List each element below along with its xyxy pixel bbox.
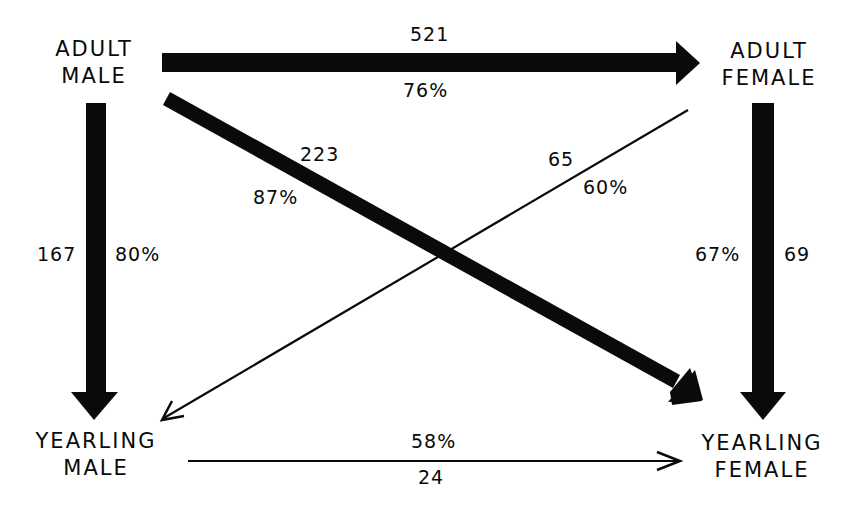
node-yearling-female-line2: FEMALE [686, 457, 838, 484]
edge-label-ym-yf-count: 24 [418, 466, 444, 488]
edge-label-am-ym-percent: 80% [115, 243, 160, 265]
node-yearling-male-line1: YEARLING [20, 428, 172, 455]
node-adult-male: ADULT MALE [38, 36, 150, 90]
edge-label-am-af-count: 521 [410, 23, 449, 45]
edge-label-af-ym-percent: 60% [583, 176, 628, 198]
arrow-adult-male-to-yearling-female [163, 92, 703, 405]
node-yearling-female: YEARLING FEMALE [686, 430, 838, 484]
node-adult-female: ADULT FEMALE [702, 38, 836, 92]
arrow-adult-female-to-yearling-male [162, 110, 688, 420]
node-adult-male-line1: ADULT [38, 36, 150, 63]
node-adult-female-line1: ADULT [702, 38, 836, 65]
node-yearling-female-line1: YEARLING [686, 430, 838, 457]
node-adult-male-line2: MALE [38, 63, 150, 90]
edge-label-af-ym-count: 65 [548, 148, 574, 170]
edge-label-ym-yf-percent: 58% [411, 430, 456, 452]
edge-label-am-yf-count: 223 [300, 143, 339, 165]
edge-label-af-yf-count: 69 [784, 243, 810, 265]
edge-label-am-ym-count: 167 [37, 243, 76, 265]
arrow-adult-male-to-yearling-male [71, 103, 118, 420]
flow-diagram: ADULT MALE ADULT FEMALE YEARLING MALE YE… [0, 0, 854, 513]
node-yearling-male: YEARLING MALE [20, 428, 172, 482]
node-yearling-male-line2: MALE [20, 455, 172, 482]
edge-label-am-yf-percent: 87% [253, 186, 298, 208]
edge-label-am-af-percent: 76% [403, 79, 448, 101]
arrow-adult-female-to-yearling-female [740, 103, 786, 420]
edge-label-af-yf-percent: 67% [695, 243, 740, 265]
node-adult-female-line2: FEMALE [702, 65, 836, 92]
